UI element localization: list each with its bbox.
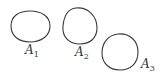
label-a1: A1 <box>24 43 39 59</box>
closed-curve-a1 <box>11 11 50 42</box>
sets-diagram: A1 A2 A3 <box>0 0 164 75</box>
label-a2: A2 <box>74 45 89 61</box>
closed-curve-a2 <box>63 8 97 44</box>
label-a3: A3 <box>140 57 155 73</box>
closed-curve-a3 <box>102 34 138 70</box>
